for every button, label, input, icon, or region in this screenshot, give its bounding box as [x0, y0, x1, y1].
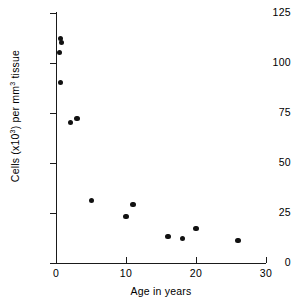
data-point: [130, 202, 135, 207]
plot-area: 0 25 50 75 100 125 0 10 20 30 Age in yea…: [0, 0, 291, 305]
data-point: [235, 238, 240, 243]
y-axis-label-prefix: Cells (x10: [9, 133, 21, 182]
x-axis-line: [56, 263, 266, 264]
x-tick-10: [126, 257, 127, 263]
y-tick-0: [50, 263, 56, 264]
y-tick-75: [50, 113, 56, 114]
data-point: [180, 236, 185, 241]
y-axis-label-suffix: tissue: [9, 50, 21, 82]
data-point: [123, 214, 128, 219]
data-point: [68, 120, 73, 125]
y-axis-label-middle: ) per mm: [9, 86, 21, 130]
y-axis-label-exponent-2: 3: [9, 82, 16, 86]
y-tick-label-100: 100: [249, 57, 291, 68]
x-tick-label-20: 20: [181, 268, 211, 279]
y-tick-label-75: 75: [249, 107, 291, 118]
x-axis-label: Age in years: [56, 285, 266, 297]
x-tick-label-10: 10: [111, 268, 141, 279]
data-point: [59, 40, 64, 45]
scatter-plot-figure: 0 25 50 75 100 125 0 10 20 30 Age in yea…: [0, 0, 291, 305]
y-tick-label-125: 125: [249, 7, 291, 18]
data-point: [58, 80, 63, 85]
x-tick-30: [266, 257, 267, 263]
y-axis-label: Cells (x103) per mm3 tissue: [9, 21, 25, 211]
data-point: [165, 234, 170, 239]
data-point: [89, 198, 94, 203]
y-tick-25: [50, 213, 56, 214]
data-point: [193, 226, 198, 231]
x-tick-label-30: 30: [251, 268, 281, 279]
x-tick-0: [56, 257, 57, 263]
y-tick-50: [50, 163, 56, 164]
data-point: [74, 116, 79, 121]
y-tick-label-50: 50: [249, 157, 291, 168]
x-tick-20: [196, 257, 197, 263]
y-tick-100: [50, 63, 56, 64]
y-axis-label-exponent-1: 3: [9, 129, 16, 133]
y-tick-label-25: 25: [249, 207, 291, 218]
x-tick-label-0: 0: [41, 268, 71, 279]
y-tick-125: [50, 13, 56, 14]
data-point: [57, 50, 62, 55]
